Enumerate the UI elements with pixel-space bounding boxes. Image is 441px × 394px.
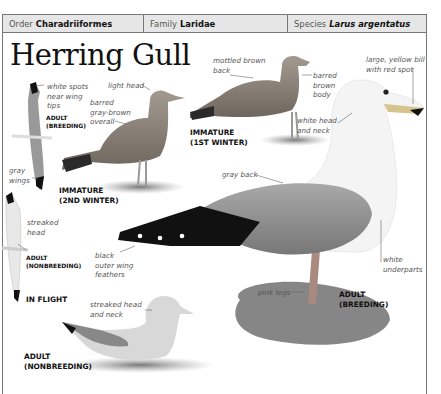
annotation-mottled-brown-back: mottled brown back: [213, 56, 266, 75]
annotation-barred-brown-body: barred brown body: [313, 71, 337, 100]
annotation-white-spots: white spots near wing tips: [47, 82, 88, 111]
annotation-white-underparts: white underparts: [383, 255, 423, 274]
annotation-black-outer-wing: black outer wing feathers: [95, 251, 133, 280]
annotation-large-yellow-bill: large, yellow bill with red spot: [366, 55, 425, 74]
annotation-gray-back: gray back: [222, 170, 258, 180]
annotation-white-head-neck: white head and neck: [297, 116, 337, 135]
caption-immature-2nd-winter: IMMATURE (2ND WINTER): [59, 186, 119, 205]
annotation-gray-wings: gray wings: [9, 166, 30, 185]
annotation-light-head: light head: [108, 81, 144, 91]
annotation-pink-legs: pink legs: [258, 288, 290, 298]
caption-adult-nonbreeding: ADULT (NONBREEDING): [24, 352, 92, 371]
caption-adult-breeding: ADULT (BREEDING): [339, 290, 388, 309]
caption-adult-breeding-flight: ADULT (BREEDING): [46, 114, 86, 130]
adult-nonbreeding-flight-icon: [2, 192, 28, 302]
annotation-barred-gray-brown: barred gray-brown overall: [90, 98, 131, 127]
caption-in-flight: IN FLIGHT: [26, 295, 67, 305]
caption-adult-nonbreeding-flight: ADULT (NONBREEDING): [26, 254, 81, 270]
caption-immature-1st-winter: IMMATURE (1ST WINTER): [190, 128, 248, 147]
annotation-streaked-head-neck: streaked head and neck: [90, 300, 142, 319]
annotation-streaked-head: streaked head: [27, 218, 59, 237]
